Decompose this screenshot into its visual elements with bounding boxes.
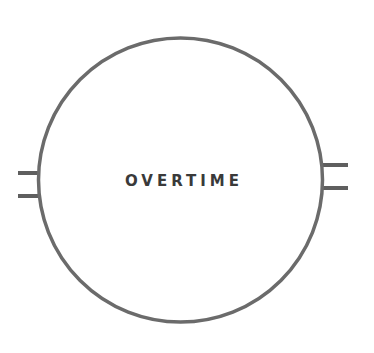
right-connectors xyxy=(322,163,348,190)
left-connector-bottom xyxy=(18,194,40,198)
left-connectors xyxy=(18,171,40,198)
state-diagram: OVERTIME xyxy=(0,0,374,353)
left-connector-top xyxy=(18,171,40,175)
right-connector-bottom xyxy=(322,186,348,190)
right-connector-top xyxy=(322,163,348,167)
node-label: OVERTIME xyxy=(125,172,243,190)
